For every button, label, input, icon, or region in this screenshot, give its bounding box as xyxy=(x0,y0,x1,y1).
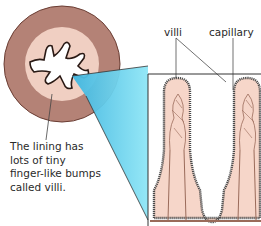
villi-label: villi xyxy=(164,26,182,38)
intestine-villi-diagram: villi capillary The lining has lots of t… xyxy=(0,0,261,226)
villi-caption: The lining has lots of tiny finger-like … xyxy=(10,140,130,194)
caption-line: finger-like bumps xyxy=(10,167,130,181)
caption-line: The lining has xyxy=(10,140,130,154)
capillary-label: capillary xyxy=(209,26,254,38)
villi-magnified-inset xyxy=(148,74,261,226)
caption-line: called villi. xyxy=(10,181,130,195)
caption-line: lots of tiny xyxy=(10,154,130,168)
